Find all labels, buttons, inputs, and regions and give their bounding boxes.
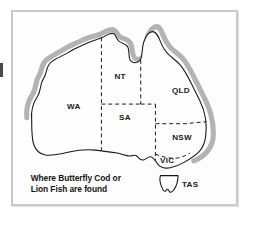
caption-line-1: Where Butterfly Cod or bbox=[31, 173, 122, 183]
state-label-qld: QLD bbox=[172, 86, 190, 95]
left-edge-artifact bbox=[0, 63, 3, 77]
australia-map-svg: WA NT QLD SA NSW VIC TAS Where Butterfly… bbox=[13, 12, 236, 204]
state-label-vic: VIC bbox=[160, 156, 174, 165]
caption-line-2: Lion Fish are found bbox=[31, 184, 107, 194]
state-label-nt: NT bbox=[114, 72, 125, 81]
tasmania-outline-icon bbox=[160, 176, 178, 193]
map-figure: WA NT QLD SA NSW VIC TAS Where Butterfly… bbox=[0, 0, 256, 237]
state-label-nsw: NSW bbox=[172, 133, 192, 142]
state-label-wa: WA bbox=[67, 102, 81, 111]
tasmania-label: TAS bbox=[182, 180, 199, 189]
state-label-sa: SA bbox=[119, 113, 131, 122]
map-panel: WA NT QLD SA NSW VIC TAS Where Butterfly… bbox=[11, 10, 238, 206]
